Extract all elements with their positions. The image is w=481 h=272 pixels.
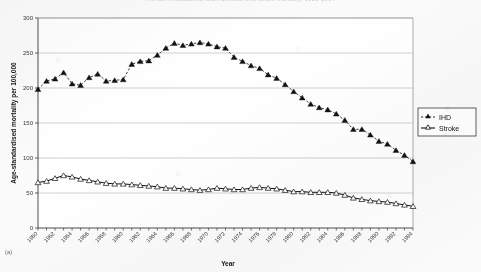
y-axis-title: Age-standardised mortality per 100,000 <box>10 62 18 184</box>
y-tick-label: 50 <box>26 190 33 196</box>
y-tick-label: 0 <box>30 225 34 231</box>
x-axis-title: Year <box>221 260 235 267</box>
y-tick-label: 300 <box>23 15 34 21</box>
x-tick-label: 1988 <box>350 230 363 243</box>
x-tick-label: 1958 <box>94 230 107 243</box>
chart-canvas: 050100150200250300 195019521954195619581… <box>0 0 481 272</box>
y-tick-label: 200 <box>23 85 34 91</box>
x-tick-label: 1970 <box>196 230 209 243</box>
x-tick-label: 1978 <box>264 230 277 243</box>
x-tick-label: 1976 <box>247 230 260 243</box>
x-tick-label: 1980 <box>281 230 294 243</box>
x-tick-label: 1966 <box>162 230 175 243</box>
legend-label-ihd: IHD <box>439 114 451 121</box>
y-tick-label: 100 <box>23 155 34 161</box>
y-tick-label: 150 <box>23 120 34 126</box>
x-tick-label: 1962 <box>128 230 141 243</box>
x-tick-label: 1992 <box>384 230 397 243</box>
x-tick-label: 1986 <box>332 230 345 243</box>
x-tick-label: 1972 <box>213 230 226 243</box>
x-tick-label: 1974 <box>230 230 243 243</box>
x-tick-label: 1964 <box>145 230 158 243</box>
x-tick-label: 1954 <box>60 230 73 243</box>
legend[interactable]: IHD Stroke <box>418 108 476 136</box>
y-tick-label: 250 <box>23 50 34 56</box>
x-tick-label: 1950 <box>26 230 39 243</box>
y-axis: 050100150200250300 <box>23 15 38 231</box>
legend-label-stroke: Stroke <box>439 125 459 132</box>
legend-box <box>418 108 476 136</box>
x-tick-label: 1968 <box>179 230 192 243</box>
x-tick-label: 1982 <box>298 230 311 243</box>
x-axis: 1950195219541956195819601962196419661968… <box>26 228 414 244</box>
x-tick-label: 1952 <box>43 230 56 243</box>
x-tick-label: 1960 <box>111 230 124 243</box>
x-tick-label: 1990 <box>367 230 380 243</box>
x-tick-label: 1994 <box>401 230 414 243</box>
x-tick-label: 1956 <box>77 230 90 243</box>
x-tick-label: 1984 <box>315 230 328 243</box>
